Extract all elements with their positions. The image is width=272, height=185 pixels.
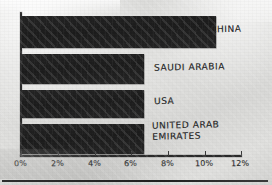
x-tick-label-12: 12% [231, 159, 249, 168]
x-tick-12 [241, 151, 242, 156]
bar-chart-figure: CHINA SAUDI ARABIA USA UNITED ARAB EMIRA… [0, 0, 272, 185]
x-tick-label-8: 8% [161, 159, 174, 168]
bar-label-united-arab-emirates: UNITED ARAB EMIRATES [152, 119, 220, 141]
x-tick-label-6: 6% [124, 159, 137, 168]
plot-area: CHINA SAUDI ARABIA USA UNITED ARAB EMIRA… [0, 0, 272, 185]
bar-china [22, 16, 216, 48]
x-tick-4 [95, 151, 96, 156]
bar-label-saudi-arabia: SAUDI ARABIA [154, 61, 225, 73]
bar-label-china: CHINA [210, 24, 242, 35]
x-tick-label-0: 0% [14, 159, 27, 168]
x-tick-10 [205, 151, 206, 156]
x-tick-label-4: 4% [88, 159, 101, 168]
bar-united-arab-emirates [22, 124, 144, 154]
bar-label-usa: USA [154, 96, 174, 107]
x-tick-0 [21, 151, 22, 156]
bar-saudi-arabia [22, 54, 144, 84]
x-tick-label-2: 2% [51, 159, 64, 168]
bar-usa [22, 90, 144, 118]
x-tick-6 [131, 151, 132, 156]
x-tick-8 [168, 151, 169, 156]
x-tick-2 [58, 151, 59, 156]
bottom-rule-line [2, 180, 268, 182]
x-tick-label-10: 10% [195, 159, 213, 168]
